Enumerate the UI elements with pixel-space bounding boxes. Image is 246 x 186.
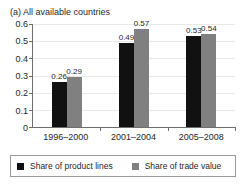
x-axis-tick-label: 2001–2004 bbox=[111, 132, 156, 143]
y-axis-tick-label: 0.2 bbox=[15, 89, 28, 98]
x-axis-tick bbox=[168, 127, 169, 131]
legend-item-product-lines[interactable]: Share of product lines bbox=[17, 161, 113, 171]
y-axis-tick-label: 0.6 bbox=[15, 20, 28, 29]
bar-value-label: 0.53 bbox=[186, 26, 202, 35]
bar-product-lines[interactable]: 0.49 bbox=[119, 43, 134, 127]
plot-area: 0.26 0.29 0.49 0.57 bbox=[32, 24, 235, 128]
bar-value-label: 0.49 bbox=[119, 33, 135, 42]
bar-value-label: 0.57 bbox=[134, 19, 150, 28]
bar-product-lines[interactable]: 0.53 bbox=[186, 36, 201, 127]
bar-pair: 0.26 0.29 bbox=[52, 24, 82, 127]
y-axis-tick-label: 0.3 bbox=[15, 72, 28, 81]
y-axis-tick-label: 0.4 bbox=[15, 54, 28, 63]
bar-value-label: 0.26 bbox=[51, 72, 67, 81]
legend-item-trade-value[interactable]: Share of trade value bbox=[132, 161, 222, 171]
y-axis-tick-label: 0.5 bbox=[15, 37, 28, 46]
legend-label: Share of product lines bbox=[30, 161, 113, 171]
x-axis-tick-label: 2005–2008 bbox=[179, 132, 224, 143]
y-axis-tick bbox=[29, 127, 33, 128]
bar-value-label: 0.29 bbox=[66, 67, 82, 76]
y-axis-tick-label: 0.1 bbox=[15, 106, 28, 115]
x-axis-tick bbox=[235, 127, 236, 131]
bar-trade-value[interactable]: 0.29 bbox=[67, 77, 82, 127]
chart-legend: Share of product lines Share of trade va… bbox=[10, 155, 236, 177]
legend-swatch-icon bbox=[132, 163, 139, 170]
y-axis-tick-label: 0 bbox=[23, 124, 28, 133]
bar-trade-value[interactable]: 0.57 bbox=[134, 29, 149, 127]
plot-inner: 0.26 0.29 0.49 0.57 bbox=[33, 24, 235, 127]
bar-chart: 0.6 0.5 0.4 0.3 0.2 0.1 0 bbox=[0, 24, 246, 140]
bar-group: 0.49 0.57 bbox=[100, 24, 167, 127]
x-axis-tick bbox=[100, 127, 101, 131]
bar-group: 0.26 0.29 bbox=[33, 24, 100, 127]
bar-pair: 0.53 0.54 bbox=[186, 24, 216, 127]
bar-group: 0.53 0.54 bbox=[168, 24, 235, 127]
legend-label: Share of trade value bbox=[145, 161, 222, 171]
bar-pair: 0.49 0.57 bbox=[119, 24, 149, 127]
bar-product-lines[interactable]: 0.26 bbox=[52, 82, 67, 127]
y-axis-tick-labels: 0.6 0.5 0.4 0.3 0.2 0.1 0 bbox=[0, 24, 30, 128]
x-axis-tick-labels: 1996–2000 2001–2004 2005–2008 bbox=[32, 132, 235, 146]
bar-trade-value[interactable]: 0.54 bbox=[201, 34, 216, 127]
bar-value-label: 0.54 bbox=[201, 24, 217, 33]
legend-swatch-icon bbox=[17, 163, 24, 170]
figure-title: (a) All available countries bbox=[10, 7, 110, 18]
x-axis-tick-label: 1996–2000 bbox=[43, 132, 88, 143]
